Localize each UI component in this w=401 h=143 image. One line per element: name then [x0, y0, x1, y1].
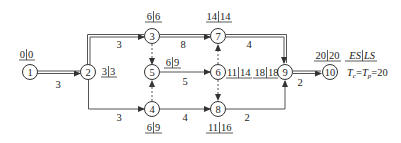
svg-text:1: 1: [27, 67, 32, 78]
network-diagram: 1 2 3 5 4 7 6 8 9 10 3 3 3 8 5 4 4 2 2: [0, 0, 401, 143]
es-ls-node-7: 14 14: [206, 11, 232, 22]
node-9: 9: [278, 65, 293, 80]
es-ls-node-10: 20 20: [314, 50, 341, 61]
svg-text:11: 11: [227, 67, 237, 78]
es-ls-node-8: 11 16: [206, 122, 233, 133]
activity-2-4: [89, 79, 145, 109]
svg-text:9: 9: [282, 67, 287, 78]
svg-text:20: 20: [316, 50, 327, 61]
svg-text:6: 6: [147, 122, 152, 133]
svg-text:14: 14: [240, 67, 251, 78]
svg-text:9: 9: [155, 122, 160, 133]
svg-text:0: 0: [20, 49, 25, 60]
svg-text:3: 3: [102, 66, 107, 77]
duration-9-10: 2: [297, 77, 302, 88]
svg-text:8: 8: [215, 104, 220, 115]
node-7: 7: [211, 29, 226, 44]
node-1: 1: [23, 65, 38, 80]
duration-2-4: 3: [116, 112, 121, 123]
svg-text:20: 20: [329, 50, 340, 61]
svg-text:6: 6: [147, 11, 152, 22]
duration-1-2: 3: [55, 79, 60, 90]
activity-3-7: [160, 35, 210, 38]
svg-text:5: 5: [149, 67, 154, 78]
duration-8-9: 2: [244, 112, 249, 123]
svg-text:7: 7: [215, 31, 220, 42]
svg-text:0: 0: [28, 49, 33, 60]
svg-text:14: 14: [207, 11, 218, 22]
es-ls-node-6: 11 14: [226, 67, 252, 78]
node-10: 10: [323, 65, 338, 80]
node-4: 4: [145, 102, 160, 117]
svg-text:9: 9: [174, 57, 179, 68]
es-ls-node-5: 6 9: [164, 57, 181, 68]
activity-1-2: [37, 71, 80, 74]
time-note: Tc=Tp=20: [347, 67, 388, 80]
svg-text:6: 6: [166, 57, 171, 68]
node-8: 8: [211, 102, 226, 117]
activity-8-9: [226, 81, 285, 109]
svg-text:14: 14: [220, 11, 231, 22]
svg-text:LS: LS: [363, 50, 376, 61]
duration-2-3: 3: [116, 39, 121, 50]
svg-text:2: 2: [85, 67, 90, 78]
svg-text:4: 4: [149, 104, 155, 115]
node-2: 2: [81, 65, 96, 80]
es-ls-node-4: 6 9: [145, 122, 162, 133]
duration-3-7: 8: [180, 39, 185, 50]
svg-text:18: 18: [255, 67, 266, 78]
svg-text:11: 11: [208, 122, 218, 133]
svg-text:6: 6: [155, 11, 160, 22]
legend-es-ls: ES LS: [345, 50, 377, 61]
svg-text:18: 18: [268, 67, 279, 78]
duration-5-6: 5: [182, 76, 187, 87]
svg-text:3: 3: [110, 66, 115, 77]
activity-7-9: [226, 35, 287, 64]
svg-text:3: 3: [149, 31, 154, 42]
svg-text:16: 16: [221, 122, 232, 133]
es-ls-node-9: 18 18: [253, 67, 279, 78]
duration-7-9: 4: [246, 39, 252, 50]
svg-text:ES: ES: [348, 50, 361, 61]
es-ls-node-2: 3 3: [101, 66, 117, 77]
duration-4-8: 4: [182, 112, 188, 123]
node-6: 6: [211, 65, 226, 80]
node-5: 5: [145, 65, 160, 80]
svg-text:6: 6: [215, 67, 220, 78]
node-3: 3: [145, 29, 160, 44]
activity-9-10: [293, 71, 321, 74]
es-ls-node-1: 0 0: [19, 49, 35, 60]
es-ls-node-3: 6 6: [145, 11, 162, 22]
svg-text:10: 10: [325, 67, 336, 78]
